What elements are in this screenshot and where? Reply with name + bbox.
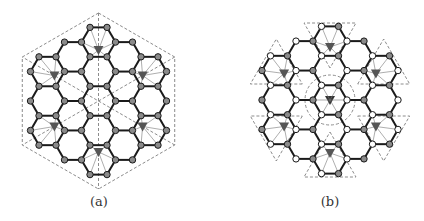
dashed-triangle bbox=[250, 116, 302, 161]
lattice-node bbox=[335, 170, 341, 176]
lattice-node bbox=[310, 156, 316, 162]
lattice-node bbox=[259, 97, 265, 103]
lattice-node bbox=[78, 98, 84, 104]
dashed-triangle bbox=[358, 39, 410, 84]
lattice-node bbox=[36, 142, 42, 148]
lattice-figure bbox=[0, 0, 424, 221]
lattice-node bbox=[267, 53, 273, 59]
lattice-node bbox=[78, 157, 84, 163]
lattice-node bbox=[361, 156, 367, 162]
lattice-node bbox=[53, 54, 59, 60]
lattice-node bbox=[61, 98, 67, 104]
dashed-triangle bbox=[250, 39, 302, 84]
lattice-node bbox=[369, 53, 375, 59]
lattice-node bbox=[284, 82, 290, 88]
lattice-node bbox=[138, 83, 144, 89]
lattice-node bbox=[386, 112, 392, 118]
lattice-node bbox=[293, 67, 299, 73]
lattice-node bbox=[318, 141, 324, 147]
lattice-node bbox=[138, 113, 144, 119]
lattice-node bbox=[369, 112, 375, 118]
lattice-node bbox=[335, 53, 341, 59]
lattice-node bbox=[344, 156, 350, 162]
lattice-node bbox=[344, 126, 350, 132]
panel-b-honeycomb-diagram bbox=[250, 23, 409, 177]
lattice-node bbox=[395, 67, 401, 73]
lattice-node bbox=[335, 82, 341, 88]
triangle-marker-icon bbox=[49, 72, 59, 81]
lattice-node bbox=[318, 53, 324, 59]
lattice-node bbox=[318, 23, 324, 29]
lattice-node bbox=[293, 126, 299, 132]
lattice-node bbox=[129, 98, 135, 104]
lattice-node bbox=[61, 157, 67, 163]
lattice-node bbox=[78, 68, 84, 74]
lattice-node bbox=[87, 142, 93, 148]
lattice-node bbox=[112, 39, 118, 45]
lattice-node bbox=[344, 97, 350, 103]
triangle-marker-icon bbox=[94, 46, 104, 55]
lattice-node bbox=[318, 82, 324, 88]
lattice-node bbox=[310, 97, 316, 103]
lattice-node bbox=[155, 83, 161, 89]
lattice-node bbox=[112, 127, 118, 133]
lattice-node bbox=[163, 98, 169, 104]
lattice-node bbox=[27, 127, 33, 133]
lattice-node bbox=[310, 38, 316, 44]
lattice-node bbox=[129, 39, 135, 45]
lattice-node bbox=[155, 54, 161, 60]
lattice-node bbox=[36, 54, 42, 60]
lattice-node bbox=[138, 54, 144, 60]
lattice-node bbox=[386, 141, 392, 147]
triangle-marker-icon bbox=[138, 72, 148, 81]
lattice-node bbox=[87, 113, 93, 119]
lattice-node bbox=[87, 24, 93, 30]
lattice-node bbox=[361, 38, 367, 44]
lattice-node bbox=[138, 142, 144, 148]
lattice-node bbox=[36, 83, 42, 89]
lattice-node bbox=[61, 68, 67, 74]
lattice-node bbox=[36, 113, 42, 119]
lattice-node bbox=[27, 68, 33, 74]
lattice-node bbox=[61, 127, 67, 133]
lattice-node bbox=[293, 38, 299, 44]
lattice-node bbox=[318, 112, 324, 118]
lattice-node bbox=[386, 82, 392, 88]
lattice-node bbox=[369, 141, 375, 147]
dashed-triangle bbox=[358, 116, 410, 161]
lattice-node bbox=[361, 126, 367, 132]
lattice-node bbox=[78, 39, 84, 45]
triangle-marker-icon bbox=[94, 148, 104, 157]
triangle-marker-icon bbox=[279, 69, 289, 78]
caption-b: (b) bbox=[321, 194, 339, 209]
lattice-node bbox=[104, 83, 110, 89]
lattice-node bbox=[104, 171, 110, 177]
lattice-node bbox=[361, 67, 367, 73]
lattice-node bbox=[267, 82, 273, 88]
lattice-node bbox=[361, 97, 367, 103]
lattice-node bbox=[284, 141, 290, 147]
lattice-node bbox=[284, 112, 290, 118]
lattice-node bbox=[155, 142, 161, 148]
triangle-marker-icon bbox=[371, 69, 381, 78]
lattice-node bbox=[87, 171, 93, 177]
lattice-node bbox=[395, 126, 401, 132]
lattice-node bbox=[267, 112, 273, 118]
lattice-node bbox=[293, 97, 299, 103]
lattice-node bbox=[87, 54, 93, 60]
lattice-node bbox=[112, 157, 118, 163]
lattice-node bbox=[259, 67, 265, 73]
lattice-node bbox=[129, 127, 135, 133]
lattice-node bbox=[104, 54, 110, 60]
lattice-node bbox=[155, 113, 161, 119]
lattice-node bbox=[104, 24, 110, 30]
lattice-node bbox=[318, 170, 324, 176]
lattice-node bbox=[310, 126, 316, 132]
lattice-node bbox=[310, 67, 316, 73]
lattice-node bbox=[104, 113, 110, 119]
lattice-node bbox=[53, 83, 59, 89]
lattice-node bbox=[395, 97, 401, 103]
panel-a-honeycomb-diagram bbox=[22, 13, 174, 189]
lattice-node bbox=[344, 38, 350, 44]
lattice-node bbox=[335, 23, 341, 29]
